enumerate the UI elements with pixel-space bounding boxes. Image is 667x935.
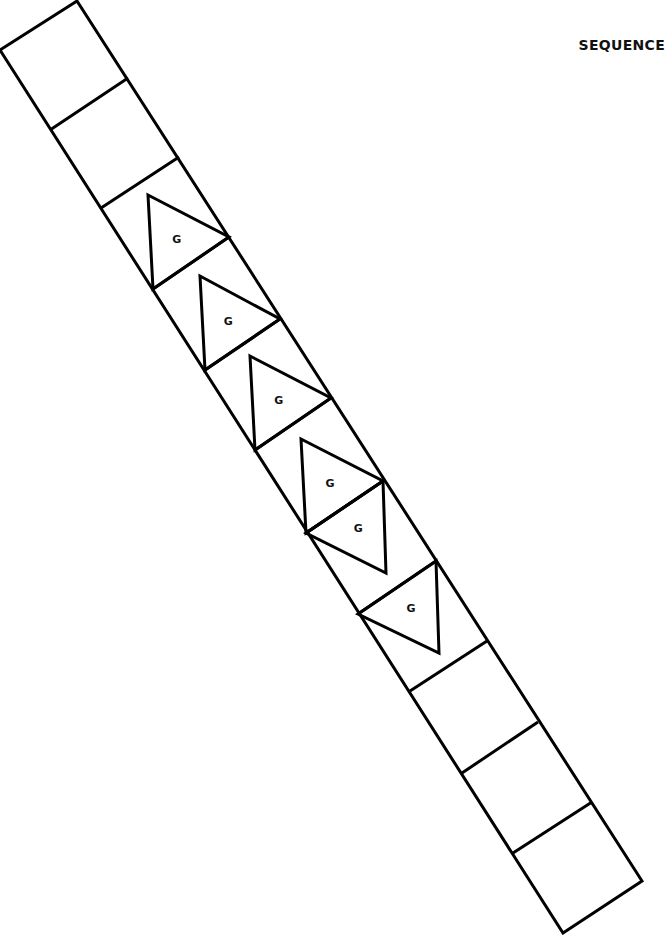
cell-divider xyxy=(410,641,487,691)
triangle-label: G xyxy=(274,394,283,407)
cell-divider xyxy=(462,722,538,773)
strip-outline xyxy=(0,1,642,933)
triangle-label: G xyxy=(224,315,233,328)
cell-divider xyxy=(101,157,179,208)
triangle-outline xyxy=(250,356,331,450)
triangle-outline xyxy=(358,561,439,653)
cells-layer xyxy=(0,1,642,933)
triangle-label: G xyxy=(325,477,334,490)
triangle-label: G xyxy=(172,233,181,246)
triangle-outline xyxy=(200,276,280,370)
triangle-shape: G xyxy=(358,561,439,653)
triangle-label: G xyxy=(406,602,415,615)
triangle-shape: G xyxy=(200,276,280,370)
triangle-outline xyxy=(306,481,386,573)
triangle-outline xyxy=(148,195,229,289)
triangle-shape: G xyxy=(148,195,229,289)
cell-divider xyxy=(513,802,592,853)
sequence-strip: GGGGGG xyxy=(0,0,667,935)
triangle-shape: G xyxy=(306,481,386,573)
shapes-layer: GGGGGG xyxy=(148,195,439,653)
triangle-outline xyxy=(301,439,383,533)
triangle-shape: G xyxy=(301,439,383,533)
cell-divider xyxy=(50,78,128,130)
triangle-label: G xyxy=(354,522,363,535)
triangle-shape: G xyxy=(250,356,331,450)
